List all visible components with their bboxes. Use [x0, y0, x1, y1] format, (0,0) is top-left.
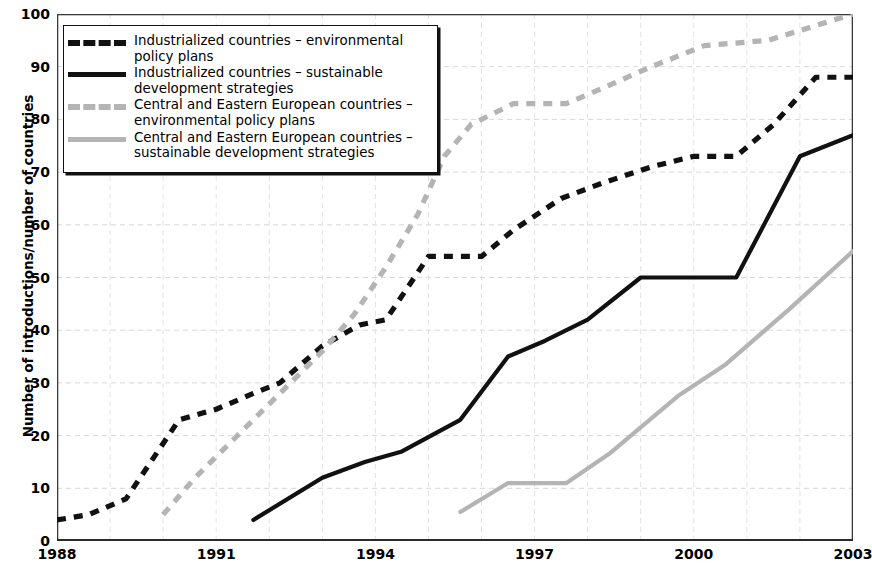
legend-swatch-1 — [68, 65, 130, 97]
y-tick-60: 60 — [6, 218, 50, 232]
chart-figure: Number of introductions/number of countr… — [0, 0, 872, 573]
legend-item: Central and Eastern European countries –… — [68, 97, 437, 129]
legend-line-icon — [68, 137, 126, 142]
x-tick-1991: 1991 — [176, 546, 256, 562]
x-tick-1997: 1997 — [495, 546, 575, 562]
chart-legend: Industrialized countries – environmental… — [63, 25, 438, 173]
y-tick-100: 100 — [6, 7, 50, 21]
x-tick-2000: 2000 — [654, 546, 734, 562]
legend-label: Central and Eastern European countries –… — [130, 130, 437, 162]
x-tick-1994: 1994 — [335, 546, 415, 562]
legend-label: Industrialized countries – environmental… — [130, 33, 437, 65]
legend-item: Industrialized countries – sustainable d… — [68, 65, 437, 97]
y-tick-30: 30 — [6, 376, 50, 390]
legend-line-icon — [68, 104, 126, 110]
legend-label: Central and Eastern European countries –… — [130, 97, 437, 129]
legend-line-icon — [68, 40, 126, 46]
y-tick-40: 40 — [6, 323, 50, 337]
y-tick-80: 80 — [6, 112, 50, 126]
legend-line-icon — [68, 72, 126, 77]
x-tick-1988: 1988 — [17, 546, 97, 562]
x-tick-2003: 2003 — [813, 546, 872, 562]
legend-label: Industrialized countries – sustainable d… — [130, 65, 437, 97]
legend-item: Industrialized countries – environmental… — [68, 33, 437, 65]
legend-swatch-0 — [68, 33, 130, 65]
legend-swatch-3 — [68, 130, 130, 162]
legend-table: Industrialized countries – environmental… — [68, 33, 437, 162]
y-tick-50: 50 — [6, 271, 50, 285]
series-line-3 — [460, 251, 853, 512]
y-tick-20: 20 — [6, 429, 50, 443]
y-tick-10: 10 — [6, 481, 50, 495]
y-tick-90: 90 — [6, 60, 50, 74]
legend-swatch-2 — [68, 97, 130, 129]
y-tick-70: 70 — [6, 165, 50, 179]
y-axis-tick-labels: 0102030405060708090100 — [0, 0, 50, 573]
legend-item: Central and Eastern European countries –… — [68, 130, 437, 162]
